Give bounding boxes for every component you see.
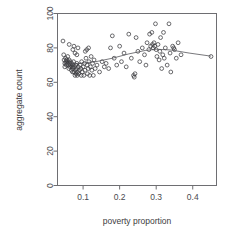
- data-point: [179, 53, 183, 57]
- data-point: [61, 39, 65, 43]
- data-point: [160, 67, 164, 71]
- data-point: [156, 43, 160, 47]
- data-point: [154, 22, 158, 26]
- data-point: [155, 55, 159, 59]
- x-axis-tick-labels: 0.10.20.30.4: [77, 192, 199, 202]
- data-point: [140, 46, 144, 50]
- data-point: [92, 58, 96, 62]
- data-point: [129, 56, 133, 60]
- y-tick-label: 20: [45, 146, 55, 156]
- data-point: [145, 41, 149, 45]
- chart-canvas: 020406080100 0.10.20.30.4 poverty propor…: [0, 0, 228, 236]
- data-point: [159, 36, 163, 40]
- x-tick-label: 0.4: [187, 192, 199, 202]
- data-point: [118, 44, 122, 48]
- x-tick-label: 0.2: [114, 192, 126, 202]
- data-point: [95, 63, 99, 67]
- data-point: [143, 53, 147, 57]
- data-point: [84, 56, 88, 60]
- data-point: [165, 63, 169, 67]
- data-point: [158, 49, 162, 53]
- y-tick-label: 80: [45, 43, 55, 53]
- data-point: [67, 43, 71, 47]
- x-axis-title: poverty proportion: [103, 216, 172, 226]
- y-tick-label: 0: [45, 183, 55, 188]
- y-tick-label: 60: [45, 77, 55, 87]
- y-axis-tick-labels: 020406080100: [45, 6, 55, 188]
- data-point: [107, 67, 111, 71]
- data-point: [138, 60, 142, 64]
- data-point: [87, 60, 91, 64]
- data-point: [157, 58, 161, 62]
- data-point: [169, 70, 173, 74]
- y-axis-title: aggregate count: [14, 69, 24, 131]
- data-points-layer: [61, 22, 213, 79]
- data-point: [168, 51, 172, 55]
- data-point: [104, 61, 108, 65]
- data-point: [176, 41, 180, 45]
- data-point: [124, 65, 128, 69]
- data-point: [162, 56, 166, 60]
- y-axis-ticks: [54, 14, 58, 186]
- data-point: [110, 34, 114, 38]
- x-axis-ticks: [83, 186, 193, 190]
- data-point: [122, 51, 126, 55]
- x-tick-label: 0.3: [150, 192, 162, 202]
- data-point: [162, 31, 166, 35]
- data-point: [115, 63, 119, 67]
- data-point: [98, 70, 102, 74]
- data-point: [109, 46, 113, 50]
- data-point: [163, 46, 167, 50]
- data-point: [209, 55, 213, 59]
- scatter-plot-figure: 020406080100 0.10.20.30.4 poverty propor…: [0, 0, 228, 236]
- data-point: [91, 74, 95, 78]
- data-point: [89, 55, 93, 59]
- data-point: [127, 32, 131, 36]
- data-point: [134, 36, 138, 40]
- x-tick-label: 0.1: [77, 192, 89, 202]
- data-point: [72, 44, 76, 48]
- y-tick-label: 100: [45, 6, 55, 20]
- y-tick-label: 40: [45, 112, 55, 122]
- data-point: [174, 56, 178, 60]
- data-point: [144, 63, 148, 67]
- data-point: [120, 60, 124, 64]
- data-point: [76, 46, 80, 50]
- data-point: [82, 74, 86, 78]
- data-point: [167, 22, 171, 26]
